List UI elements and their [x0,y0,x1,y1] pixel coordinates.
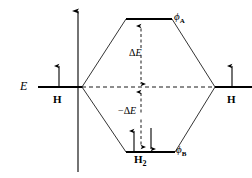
mo-energy-diagram: E H H ϕA ϕB H2 ΔE −ΔE [0,0,252,178]
molecule-label: H2 [134,154,147,168]
right-atom-label: H [227,94,236,105]
electron-spin-arrows [59,66,232,152]
destabilization-e-symbol: E [135,47,141,58]
bonding-subscript: B [182,150,187,158]
molecule-symbol: H [134,153,143,165]
stabilization-e-symbol: E [130,105,136,116]
diagram-canvas [0,0,252,178]
stabilization-gap-label: −ΔE [118,106,136,116]
molecule-subscript: 2 [143,159,147,168]
destabilization-gap-label: ΔE [129,48,142,58]
energy-axis-label: E [20,80,27,92]
energy-level-bars [38,19,252,152]
left-atom-label: H [53,94,62,105]
antibonding-subscript: A [180,17,185,25]
bonding-orbital-label: ϕB [176,144,186,158]
correlation-lines [82,19,215,152]
antibonding-orbital-label: ϕA [174,11,185,25]
